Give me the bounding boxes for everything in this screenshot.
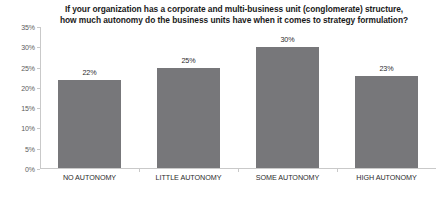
bars-layer: 22%25%30%23% <box>40 27 436 169</box>
y-tick-label: 10% <box>21 125 35 132</box>
bar-group: 30% <box>256 27 320 169</box>
bar-value-label: 22% <box>58 68 122 77</box>
category-label: SOME AUTONOMY <box>238 173 337 182</box>
category-label: HIGH AUTONOMY <box>337 173 436 182</box>
y-tick-label: 30% <box>21 44 35 51</box>
y-tick-mark <box>37 169 40 170</box>
x-axis-separator <box>337 169 338 172</box>
bar <box>256 47 320 169</box>
bar <box>58 80 122 169</box>
y-tick-label: 15% <box>21 105 35 112</box>
y-tick-label: 5% <box>25 145 35 152</box>
plot-area: 0%5%10%15%20%25%30%35% 22%25%30%23% <box>40 27 436 169</box>
category-labels: NO AUTONOMYLITTLE AUTONOMYSOME AUTONOMYH… <box>40 173 436 187</box>
bar <box>355 76 419 169</box>
chart-title-line-1: If your organization has a corporate and… <box>34 4 434 15</box>
bar-value-label: 23% <box>355 64 419 73</box>
y-tick-label: 25% <box>21 64 35 71</box>
y-tick-label: 35% <box>21 24 35 31</box>
x-axis-separator <box>238 169 239 172</box>
bar-chart: If your organization has a corporate and… <box>0 0 443 198</box>
x-axis-separator <box>139 169 140 172</box>
bar-group: 25% <box>157 27 221 169</box>
chart-title-line-2: how much autonomy do the business units … <box>34 15 434 26</box>
chart-title: If your organization has a corporate and… <box>34 4 434 27</box>
y-tick-label: 0% <box>25 166 35 173</box>
category-label: LITTLE AUTONOMY <box>139 173 238 182</box>
bar-value-label: 25% <box>157 56 221 65</box>
y-tick-label: 20% <box>21 84 35 91</box>
bar-value-label: 30% <box>256 35 320 44</box>
bar <box>157 68 221 169</box>
bar-group: 22% <box>58 27 122 169</box>
category-label: NO AUTONOMY <box>40 173 139 182</box>
bar-group: 23% <box>355 27 419 169</box>
